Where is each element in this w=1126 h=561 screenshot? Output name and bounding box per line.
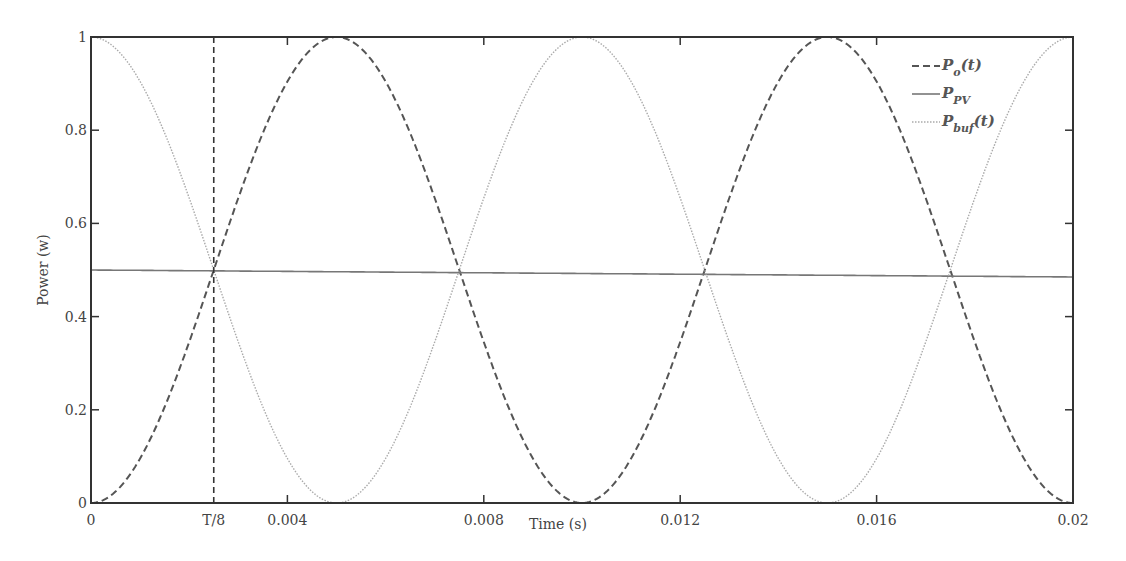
x-tick-label: 0.02: [1057, 512, 1088, 528]
series-line-2: [91, 37, 1073, 503]
x-tick-label: 0.016: [857, 512, 897, 528]
y-tick-label: 0: [78, 495, 87, 511]
axis-ticks: 0T/80.0040.0080.0120.0160.0200.20.40.60.…: [65, 29, 1089, 528]
x-tick-label: 0.008: [464, 512, 504, 528]
legend-label: Po(t): [941, 56, 982, 79]
series-layer: [91, 37, 1073, 503]
y-tick-label: 0.2: [65, 402, 87, 418]
plot-frame: [91, 37, 1073, 503]
legend-label: Pbuf(t): [941, 112, 995, 135]
legend: Po(t)PPVPbuf(t): [912, 56, 995, 135]
x-tick-label: T/8: [202, 512, 225, 528]
legend-label: PPV: [941, 84, 972, 107]
y-tick-label: 1: [78, 29, 87, 45]
series-line-0: [91, 37, 1073, 503]
y-tick-label: 0.4: [65, 309, 87, 325]
y-tick-label: 0.8: [65, 122, 87, 138]
x-axis-title: Time (s): [529, 516, 587, 532]
x-tick-label: 0.012: [660, 512, 700, 528]
y-axis-title: Power (w): [35, 234, 51, 306]
x-tick-label: 0: [87, 512, 96, 528]
x-tick-label: 0.004: [267, 512, 307, 528]
series-line-1: [91, 270, 1073, 277]
power-vs-time-chart: 0T/80.0040.0080.0120.0160.0200.20.40.60.…: [0, 0, 1126, 561]
y-tick-label: 0.6: [65, 215, 87, 231]
